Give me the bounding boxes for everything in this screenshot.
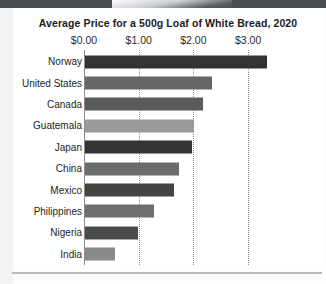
- bar-row: China: [13, 158, 323, 179]
- bar-nigeria: [85, 226, 138, 239]
- top-band-highlight: [112, 0, 232, 8]
- bar-row: India: [13, 244, 323, 265]
- bar-mexico: [85, 184, 174, 197]
- bar-row: Nigeria: [13, 222, 323, 243]
- bar-japan: [85, 141, 192, 154]
- bar-row: Philippines: [13, 201, 323, 222]
- category-label-philippines: Philippines: [0, 206, 85, 217]
- category-label-mexico: Mexico: [0, 185, 85, 196]
- category-label-canada: Canada: [0, 99, 85, 110]
- category-label-china: China: [0, 163, 85, 174]
- bar-row: Japan: [13, 137, 323, 158]
- bar-canada: [85, 98, 203, 111]
- bar-india: [85, 248, 115, 261]
- category-label-nigeria: Nigeria: [0, 227, 85, 238]
- screenshot-page: Average Price for a 500g Loaf of White B…: [0, 0, 326, 284]
- bar-row: United States: [13, 72, 323, 93]
- bar-norway: [85, 55, 267, 68]
- category-label-india: India: [0, 249, 85, 260]
- bar-row: Guatemala: [13, 115, 323, 136]
- bar-chart: Average Price for a 500g Loaf of White B…: [13, 8, 323, 270]
- bar-row: Norway: [13, 51, 323, 72]
- bar-guatemala: [85, 119, 194, 132]
- x-tick-label-0: $0.00: [71, 34, 97, 46]
- bar-row: Mexico: [13, 179, 323, 200]
- x-tick-label-3: $3.00: [235, 34, 261, 46]
- category-label-united-states: United States: [0, 78, 85, 89]
- plot-area: $0.00$1.00$2.00$3.00 NorwayUnited States…: [13, 8, 323, 270]
- bar-philippines: [85, 205, 154, 218]
- bar-china: [85, 162, 179, 175]
- bar-row: Canada: [13, 94, 323, 115]
- x-tick-label-1: $1.00: [126, 34, 152, 46]
- category-label-japan: Japan: [0, 142, 85, 153]
- category-label-guatemala: Guatemala: [0, 120, 85, 131]
- window-top-band: [0, 0, 326, 8]
- category-label-norway: Norway: [0, 56, 85, 67]
- bar-united-states: [85, 77, 212, 90]
- bottom-divider: [12, 272, 322, 274]
- bar-rows: NorwayUnited StatesCanadaGuatemalaJapanC…: [13, 51, 323, 265]
- x-tick-label-2: $2.00: [180, 34, 206, 46]
